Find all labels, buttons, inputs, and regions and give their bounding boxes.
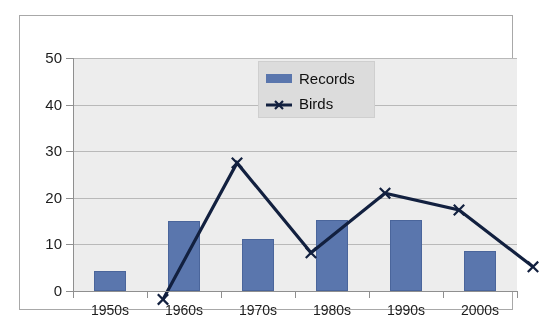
y-axis-tick-mark — [66, 151, 73, 152]
y-axis-tick-mark — [66, 291, 73, 292]
y-axis-tick-label: 10 — [22, 235, 62, 252]
bar-swatch-icon — [266, 74, 292, 83]
legend-item-birds: Birds — [266, 93, 333, 113]
y-axis-tick-label: 20 — [22, 189, 62, 206]
x-axis-tick-mark — [221, 292, 222, 298]
chart-frame: 01020304050 1950s1960s1970s1980s1990s200… — [19, 15, 513, 310]
bar — [94, 271, 125, 291]
x-axis-tick-label: 1970s — [239, 302, 277, 318]
x-axis-tick-mark — [295, 292, 296, 298]
legend-label-birds: Birds — [299, 95, 333, 112]
x-axis-tick-label: 1960s — [165, 302, 203, 318]
y-axis-tick-mark — [66, 105, 73, 106]
y-axis-tick-label: 0 — [22, 282, 62, 299]
y-axis-tick-mark — [66, 244, 73, 245]
birds-line-path — [163, 163, 533, 300]
x-axis-tick-label: 1980s — [313, 302, 351, 318]
y-axis-tick-label: 50 — [22, 49, 62, 66]
y-axis-tick-mark — [66, 198, 73, 199]
y-axis-tick-label: 40 — [22, 96, 62, 113]
line-marker-x-icon — [266, 97, 292, 109]
x-axis-tick-mark — [443, 292, 444, 298]
x-axis-tick-mark — [517, 292, 518, 298]
y-axis-line — [73, 58, 74, 292]
y-axis-tick-label: 30 — [22, 142, 62, 159]
legend-item-records: Records — [266, 68, 355, 88]
x-axis-tick-mark — [73, 292, 74, 298]
chart-legend: Records Birds — [258, 61, 375, 118]
y-axis-tick-labels: 01020304050 — [20, 58, 62, 291]
birds-data-point-marker — [528, 262, 538, 272]
x-axis-tick-label: 2000s — [461, 302, 499, 318]
birds-data-point-marker — [232, 158, 242, 168]
birds-data-point-marker — [306, 248, 316, 258]
x-axis-tick-label: 1990s — [387, 302, 425, 318]
legend-label-records: Records — [299, 70, 355, 87]
line-series-birds — [126, 100, 543, 326]
x-axis-tick-mark — [147, 292, 148, 298]
y-axis-tick-mark — [66, 58, 73, 59]
gridline — [73, 58, 517, 59]
birds-marker-group — [158, 158, 538, 305]
x-axis-tick-mark — [369, 292, 370, 298]
x-axis-tick-label: 1950s — [91, 302, 129, 318]
